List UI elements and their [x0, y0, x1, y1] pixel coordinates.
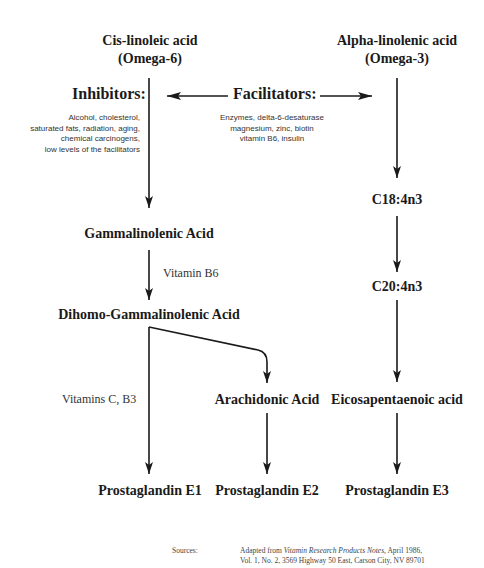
source-label: Sources:: [172, 546, 198, 556]
inhibitors-list: Alcohol, cholesterol, saturated fats, ra…: [20, 113, 140, 155]
node-alpha-linolenic-acid: Alpha-linolenic acid (Omega-3): [330, 32, 464, 68]
arrow-dgla-to-aa: [149, 327, 267, 383]
inhibitors-heading: Inhibitors:: [72, 85, 146, 103]
source-citation: Adapted from Vitamin Research Products N…: [240, 546, 425, 566]
node-gammalinolenic-acid: Gammalinolenic Acid: [79, 225, 219, 243]
node-prostaglandin-e2: Prostaglandin E2: [213, 482, 321, 500]
node-title: Cis-linoleic acid: [90, 32, 210, 50]
label-vitamin-b6: Vitamin B6: [163, 266, 219, 281]
node-arachidonic-acid: Arachidonic Acid: [213, 391, 321, 409]
node-subtitle: (Omega-6): [90, 50, 210, 68]
facilitators-list: Enzymes, delta-6-desaturase magnesium, z…: [202, 113, 342, 145]
node-prostaglandin-e3: Prostaglandin E3: [340, 482, 454, 500]
node-c20-4n3: C20:4n3: [357, 278, 437, 296]
node-dihomo-gammalinolenic-acid: Dihomo-Gammalinolenic Acid: [58, 306, 240, 324]
facilitators-heading: Facilitators:: [233, 85, 317, 103]
node-title: Alpha-linolenic acid: [330, 32, 464, 50]
node-c18-4n3: C18:4n3: [357, 191, 437, 209]
node-subtitle: (Omega-3): [330, 50, 464, 68]
label-vitamins-c-b3: Vitamins C, B3: [62, 392, 136, 407]
node-eicosapentaenoic-acid: Eicosapentaenoic acid: [330, 391, 464, 409]
node-prostaglandin-e1: Prostaglandin E1: [96, 482, 204, 500]
node-cis-linoleic-acid: Cis-linoleic acid (Omega-6): [90, 32, 210, 68]
